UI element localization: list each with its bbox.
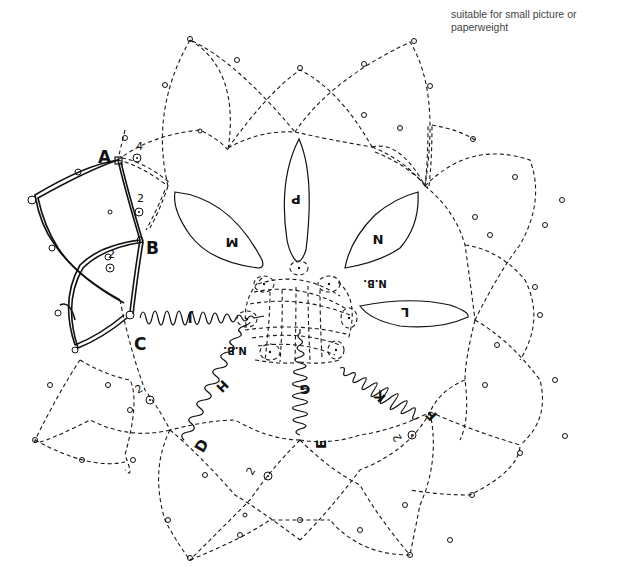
outer-scallops [35, 40, 543, 560]
point-label-a: A [98, 147, 112, 167]
point-label-c: C [134, 334, 146, 354]
coil-label-k: K [370, 387, 388, 405]
picots [33, 37, 568, 561]
coil-label-g: G [300, 382, 311, 397]
coil-label-h: H [213, 377, 231, 395]
petal-n: N [345, 192, 418, 268]
petal-m: M [175, 192, 263, 268]
notes: N.B. N.B. [223, 278, 387, 356]
coil-k: K [340, 368, 418, 420]
note-nb-2: N.B. [223, 345, 247, 356]
note-nb-1: N.B. [363, 278, 387, 289]
count-de: 2 [244, 465, 259, 478]
count-ab: 2 [137, 192, 144, 205]
petal-label-n: N [373, 232, 384, 247]
point-label-b: B [146, 238, 159, 258]
petal-l: L [360, 301, 468, 327]
count-ef: 2 [390, 431, 405, 444]
coil-label-j: J [188, 311, 194, 326]
point-label-d: D [191, 436, 213, 456]
count-bc: 2 [108, 248, 115, 261]
point-label-f: F [422, 406, 440, 424]
petal-p: P [284, 139, 309, 262]
point-label-e: E [313, 439, 329, 449]
count-a: 4 [136, 140, 143, 153]
petal-label-l: L [401, 305, 409, 320]
petal-label-p: P [291, 192, 301, 207]
heavy-chain [28, 157, 143, 353]
count-markers: 4 2 2 2 2 2 [106, 140, 416, 480]
lace-diagram: P M N L [0, 0, 634, 584]
petal-label-m: M [226, 235, 239, 250]
